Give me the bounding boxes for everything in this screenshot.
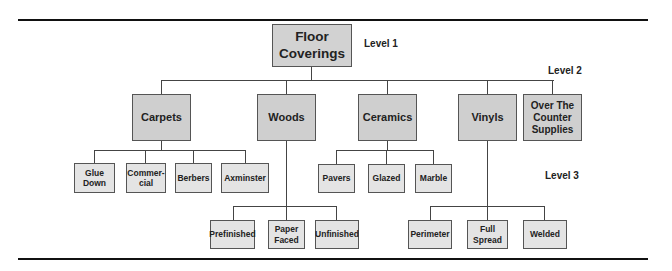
floor-coverings-hierarchy-diagram: Level 1 Level 2 Level 3 Floor Coverings … — [0, 0, 672, 271]
connector — [311, 66, 312, 80]
bottom-rule — [18, 258, 648, 260]
connector — [336, 150, 434, 151]
connector — [336, 206, 337, 220]
connector — [286, 80, 287, 94]
connector — [336, 150, 337, 164]
node-unfinished: Unfinished — [315, 220, 359, 249]
connector — [544, 206, 545, 220]
connector — [552, 80, 553, 94]
connector — [94, 150, 95, 163]
node-vinyls: Vinyls — [458, 94, 517, 141]
connector — [233, 206, 234, 220]
connector — [233, 206, 337, 207]
connector — [161, 140, 162, 150]
connector — [94, 150, 246, 151]
node-full-spread: Full Spread — [467, 220, 508, 249]
connector — [286, 140, 287, 206]
node-commercial: Commer- cial — [126, 163, 166, 193]
node-woods: Woods — [257, 94, 316, 141]
node-axminster: Axminster — [221, 163, 269, 193]
connector — [161, 80, 162, 94]
level-3-label: Level 3 — [545, 170, 579, 181]
node-paper-faced: Paper Faced — [268, 220, 305, 249]
node-prefinished: Prefinished — [210, 220, 255, 249]
level-1-label: Level 1 — [364, 38, 398, 49]
connector — [387, 80, 388, 94]
connector — [487, 140, 488, 206]
node-over-the-counter-supplies: Over The Counter Supplies — [523, 94, 582, 141]
level-2-label: Level 2 — [548, 65, 582, 76]
node-welded: Welded — [523, 220, 567, 249]
node-glazed: Glazed — [368, 164, 405, 193]
connector — [145, 150, 146, 163]
node-berbers: Berbers — [175, 163, 212, 193]
connector — [386, 150, 387, 164]
node-glue-down: Glue Down — [74, 163, 115, 193]
connector — [487, 206, 488, 220]
connector — [161, 80, 554, 81]
top-rule — [18, 19, 648, 21]
node-pavers: Pavers — [318, 164, 355, 193]
node-carpets: Carpets — [132, 94, 191, 141]
connector — [286, 206, 287, 220]
connector — [193, 150, 194, 163]
node-marble: Marble — [415, 164, 452, 193]
connector — [430, 206, 431, 220]
connector — [433, 150, 434, 164]
connector — [245, 150, 246, 163]
connector — [387, 140, 388, 150]
node-perimeter: Perimeter — [408, 220, 452, 249]
node-floor-coverings: Floor Coverings — [272, 24, 352, 67]
connector — [487, 80, 488, 94]
node-ceramics: Ceramics — [358, 94, 417, 141]
